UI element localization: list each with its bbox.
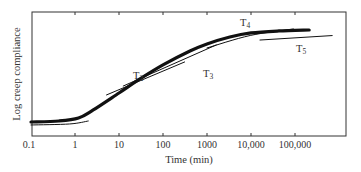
curve-label-t3: T3 — [203, 68, 213, 81]
x-tick-label: 10,000 — [237, 139, 265, 150]
x-tick-label: 0.1 — [23, 139, 36, 150]
curves — [31, 29, 332, 125]
curve-t5 — [260, 36, 332, 40]
curve-label-t4: T4 — [240, 17, 250, 30]
x-tick-label: 100 — [156, 139, 171, 150]
y-axis-title: Log creep compliance — [11, 27, 22, 121]
x-axis-title: Time (min) — [165, 154, 213, 166]
x-tick-label: 100,000 — [279, 139, 312, 150]
x-axis-tick-labels: 0.1110100100010,000100,000 — [23, 139, 312, 150]
master-curve — [31, 30, 309, 122]
x-tick-label: 1 — [73, 139, 78, 150]
curve-t2 — [107, 62, 185, 95]
x-tick-label: 1000 — [197, 139, 217, 150]
curve-label-t5: T5 — [296, 43, 306, 56]
creep-compliance-chart: 0.1110100100010,000100,000 Time (min) Lo… — [0, 0, 361, 172]
x-tick-label: 10 — [114, 139, 124, 150]
